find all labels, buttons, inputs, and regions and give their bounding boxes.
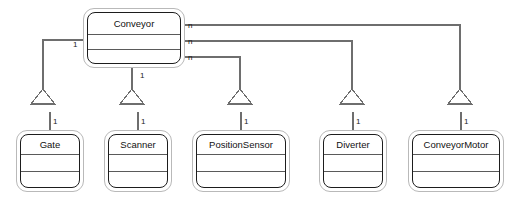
uml-class-name: Diverter bbox=[336, 140, 369, 150]
uml-class-name-compartment: Gate bbox=[21, 135, 79, 155]
uml-class-body: PositionSensor bbox=[196, 134, 286, 188]
uml-attributes-compartment bbox=[197, 155, 285, 172]
multiplicity-conveyor-left-gate: 1 bbox=[73, 41, 77, 49]
uml-operations-compartment bbox=[324, 172, 382, 188]
multiplicity-conveyor-right-2: n bbox=[188, 38, 192, 46]
uml-class-name-compartment: Scanner bbox=[109, 135, 167, 155]
uml-operations-compartment bbox=[197, 172, 285, 188]
association-line-conveyor-gate bbox=[43, 40, 83, 104]
uml-operations-compartment bbox=[88, 50, 180, 64]
association-line-conveyor-positionsensor bbox=[185, 57, 240, 104]
hollow-triangle-arrowhead-positionsensor bbox=[228, 89, 252, 104]
uml-class-name: ConveyorMotor bbox=[424, 140, 489, 150]
uml-class-name-compartment: PositionSensor bbox=[197, 135, 285, 155]
uml-class-gate[interactable]: Gate bbox=[16, 130, 84, 192]
uml-class-body: Diverter bbox=[323, 134, 383, 188]
uml-class-name-compartment: Conveyor bbox=[88, 13, 180, 35]
uml-class-body: ConveyorMotor bbox=[412, 134, 500, 188]
uml-attributes-compartment bbox=[21, 155, 79, 172]
multiplicity-conveyor-bottom-scanner: 1 bbox=[140, 72, 144, 80]
uml-attributes-compartment bbox=[413, 155, 499, 172]
multiplicity-positionsensor-end: 1 bbox=[244, 118, 248, 126]
uml-class-body: Scanner bbox=[108, 134, 168, 188]
uml-class-body: Conveyor bbox=[87, 12, 181, 64]
multiplicity-diverter-end: 1 bbox=[356, 118, 360, 126]
multiplicity-conveyor-right-1: n bbox=[188, 22, 192, 30]
uml-class-diverter[interactable]: Diverter bbox=[319, 130, 387, 192]
multiplicity-gate-end: 1 bbox=[53, 118, 57, 126]
uml-operations-compartment bbox=[413, 172, 499, 188]
association-line-conveyor-conveyormotor bbox=[185, 25, 460, 104]
uml-class-body: Gate bbox=[20, 134, 80, 188]
uml-class-name-compartment: ConveyorMotor bbox=[413, 135, 499, 155]
uml-class-name: PositionSensor bbox=[209, 140, 273, 150]
uml-class-conveyor[interactable]: Conveyor bbox=[83, 8, 185, 68]
uml-class-name-compartment: Diverter bbox=[324, 135, 382, 155]
multiplicity-scanner-end: 1 bbox=[141, 118, 145, 126]
multiplicity-conveyor-right-3: n bbox=[188, 54, 192, 62]
hollow-triangle-arrowhead-scanner bbox=[120, 89, 144, 104]
uml-attributes-compartment bbox=[109, 155, 167, 172]
uml-class-conveyormotor[interactable]: ConveyorMotor bbox=[408, 130, 504, 192]
uml-class-name: Scanner bbox=[120, 140, 155, 150]
uml-attributes-compartment bbox=[88, 35, 180, 50]
multiplicity-conveyormotor-end: 1 bbox=[464, 118, 468, 126]
hollow-triangle-arrowhead-gate bbox=[31, 89, 55, 104]
uml-class-name: Gate bbox=[40, 140, 61, 150]
uml-class-scanner[interactable]: Scanner bbox=[104, 130, 172, 192]
hollow-triangle-arrowhead-diverter bbox=[340, 89, 364, 104]
uml-class-positionsensor[interactable]: PositionSensor bbox=[192, 130, 290, 192]
uml-attributes-compartment bbox=[324, 155, 382, 172]
uml-operations-compartment bbox=[109, 172, 167, 188]
hollow-triangle-arrowhead-conveyormotor bbox=[448, 89, 472, 104]
uml-operations-compartment bbox=[21, 172, 79, 188]
association-line-conveyor-diverter bbox=[185, 41, 352, 104]
uml-class-diagram: Conveyor Gate Scanner PositionSe bbox=[0, 0, 516, 198]
uml-class-name: Conveyor bbox=[114, 19, 155, 29]
